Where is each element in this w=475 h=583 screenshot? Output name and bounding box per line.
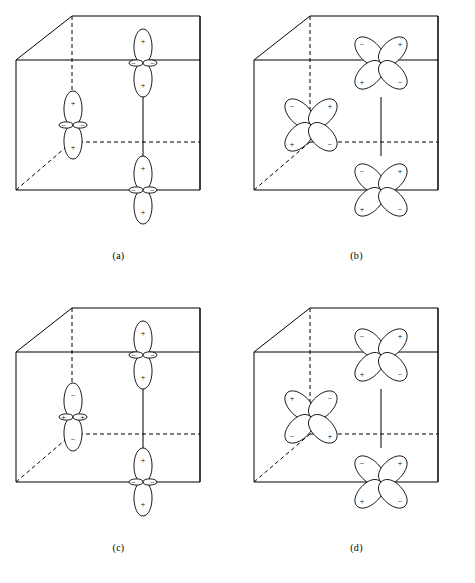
sign-tl-lower-right: − bbox=[360, 459, 365, 468]
sign-tr-middle-left: − bbox=[328, 394, 333, 403]
panel-c-caption: (c) bbox=[0, 542, 237, 553]
unit-cell-a: ++−−++−−++−− bbox=[0, 0, 237, 250]
panel-d: −++−+−−+−++− (d) bbox=[238, 292, 475, 583]
sign-right-middle-left: + bbox=[80, 413, 85, 422]
sign-bl-lower-right: + bbox=[360, 205, 365, 214]
sign-br-lower-right: − bbox=[398, 205, 403, 214]
sign-right-lower-right: − bbox=[150, 186, 155, 195]
panel-d-caption: (d) bbox=[238, 542, 475, 553]
sign-left-upper-right: − bbox=[131, 59, 136, 68]
sign-top-lower-right: + bbox=[141, 456, 146, 465]
sign-br-upper-right: − bbox=[398, 370, 403, 379]
sign-br-middle-left: + bbox=[328, 432, 333, 441]
sign-tr-upper-right: + bbox=[398, 332, 403, 341]
sign-bottom-middle-left: − bbox=[71, 435, 76, 444]
panel-b: −++−−++−−++− (b) bbox=[238, 0, 475, 291]
sign-right-middle-left: − bbox=[80, 121, 85, 130]
panel-b-diagram: −++−−++−−++− bbox=[238, 0, 475, 250]
sign-br-lower-right: − bbox=[398, 497, 403, 506]
sign-tr-middle-left: + bbox=[328, 102, 333, 111]
sign-tl-lower-right: − bbox=[360, 167, 365, 176]
sign-bottom-upper-right: + bbox=[141, 81, 146, 90]
sign-tl-upper-right: − bbox=[360, 332, 365, 341]
sign-top-middle-left: − bbox=[71, 391, 76, 400]
sign-tr-upper-right: + bbox=[398, 40, 403, 49]
panel-c-diagram: ++−−−−++++−− bbox=[0, 292, 237, 542]
sign-left-middle-left: + bbox=[61, 413, 66, 422]
orbital-figure: ++−−++−−++−− (a) −++−−++−−++− (b) ++−−−−… bbox=[0, 0, 475, 583]
panel-b-caption: (b) bbox=[238, 250, 475, 261]
unit-cell-b: −++−−++−−++− bbox=[238, 0, 475, 250]
sign-right-upper-right: − bbox=[150, 351, 155, 360]
sign-tr-lower-right: + bbox=[398, 459, 403, 468]
sign-top-upper-right: + bbox=[141, 329, 146, 338]
sign-tl-middle-left: − bbox=[290, 102, 295, 111]
sign-bl-lower-right: + bbox=[360, 497, 365, 506]
sign-top-middle-left: + bbox=[71, 99, 76, 108]
sign-right-lower-right: − bbox=[150, 478, 155, 487]
sign-left-lower-right: − bbox=[131, 478, 136, 487]
panel-a-caption: (a) bbox=[0, 250, 237, 261]
sign-left-upper-right: − bbox=[131, 351, 136, 360]
sign-right-upper-right: − bbox=[150, 59, 155, 68]
sign-bl-upper-right: + bbox=[360, 370, 365, 379]
sign-left-lower-right: − bbox=[131, 186, 136, 195]
sign-bottom-upper-right: + bbox=[141, 373, 146, 382]
sign-bl-middle-left: + bbox=[290, 140, 295, 149]
sign-bl-upper-right: + bbox=[360, 78, 365, 87]
sign-top-lower-right: + bbox=[141, 164, 146, 173]
sign-tl-upper-right: − bbox=[360, 40, 365, 49]
sign-bottom-lower-right: + bbox=[141, 500, 146, 509]
sign-bl-middle-left: − bbox=[290, 432, 295, 441]
panel-a-diagram: ++−−++−−++−− bbox=[0, 0, 237, 250]
panel-d-diagram: −++−+−−+−++− bbox=[238, 292, 475, 542]
panel-a: ++−−++−−++−− (a) bbox=[0, 0, 237, 291]
sign-top-upper-right: + bbox=[141, 37, 146, 46]
sign-br-upper-right: − bbox=[398, 78, 403, 87]
unit-cell-c: ++−−−−++++−− bbox=[0, 292, 237, 542]
sign-bottom-lower-right: + bbox=[141, 208, 146, 217]
sign-bottom-middle-left: + bbox=[71, 143, 76, 152]
sign-br-middle-left: − bbox=[328, 140, 333, 149]
sign-tl-middle-left: + bbox=[290, 394, 295, 403]
sign-left-middle-left: − bbox=[61, 121, 66, 130]
panel-c: ++−−−−++++−− (c) bbox=[0, 292, 237, 583]
unit-cell-d: −++−+−−+−++− bbox=[238, 292, 475, 542]
sign-tr-lower-right: + bbox=[398, 167, 403, 176]
